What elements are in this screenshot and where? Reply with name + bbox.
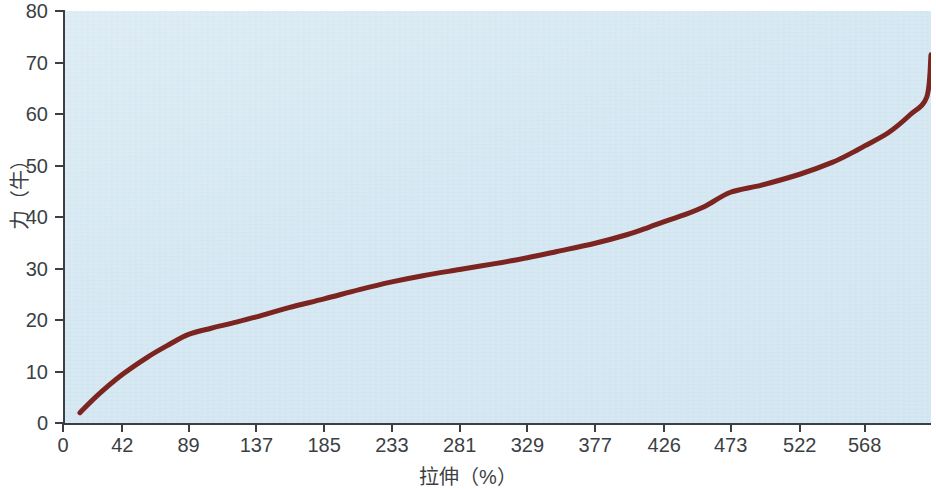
y-tick-label: 70 xyxy=(0,51,48,74)
y-axis-line xyxy=(63,10,65,424)
x-tick-mark xyxy=(459,424,461,432)
y-tick-label: 20 xyxy=(0,309,48,332)
data-curve-path xyxy=(80,55,931,413)
x-tick-mark xyxy=(255,424,257,432)
x-tick-mark xyxy=(594,424,596,432)
x-tick-label: 377 xyxy=(578,434,611,457)
y-axis-title: 力（牛） xyxy=(4,120,33,260)
y-tick-mark xyxy=(55,113,63,115)
y-tick-mark xyxy=(55,371,63,373)
x-tick-mark xyxy=(864,424,866,432)
y-tick-mark xyxy=(55,62,63,64)
y-tick-mark xyxy=(55,268,63,270)
x-tick-label: 522 xyxy=(783,434,816,457)
x-tick-label: 233 xyxy=(375,434,408,457)
x-tick-label: 0 xyxy=(57,434,68,457)
plot-area xyxy=(63,11,931,423)
x-axis-line xyxy=(63,423,931,425)
x-tick-mark xyxy=(121,424,123,432)
x-tick-mark xyxy=(799,424,801,432)
y-tick-label: 10 xyxy=(0,360,48,383)
x-tick-label: 281 xyxy=(443,434,476,457)
x-tick-mark xyxy=(323,424,325,432)
x-tick-mark xyxy=(526,424,528,432)
x-tick-mark xyxy=(391,424,393,432)
y-tick-mark xyxy=(55,422,63,424)
x-tick-label: 42 xyxy=(111,434,133,457)
x-tick-mark xyxy=(730,424,732,432)
data-curve-svg xyxy=(63,11,931,423)
x-axis-title: 拉伸（%） xyxy=(0,461,936,489)
x-tick-label: 568 xyxy=(848,434,881,457)
y-tick-mark xyxy=(55,10,63,12)
y-tick-mark xyxy=(55,165,63,167)
y-tick-label: 0 xyxy=(0,412,48,435)
x-tick-label: 473 xyxy=(714,434,747,457)
y-tick-label: 80 xyxy=(0,0,48,23)
chart-container: 04289137185233281329377426473522568 0102… xyxy=(0,0,936,489)
x-tick-mark xyxy=(62,424,64,432)
x-tick-mark xyxy=(663,424,665,432)
x-tick-label: 329 xyxy=(511,434,544,457)
y-tick-label: 30 xyxy=(0,257,48,280)
y-tick-mark xyxy=(55,216,63,218)
x-tick-label: 426 xyxy=(648,434,681,457)
x-tick-mark xyxy=(188,424,190,432)
x-tick-label: 137 xyxy=(240,434,273,457)
y-tick-mark xyxy=(55,319,63,321)
x-tick-label: 89 xyxy=(177,434,199,457)
x-tick-label: 185 xyxy=(307,434,340,457)
